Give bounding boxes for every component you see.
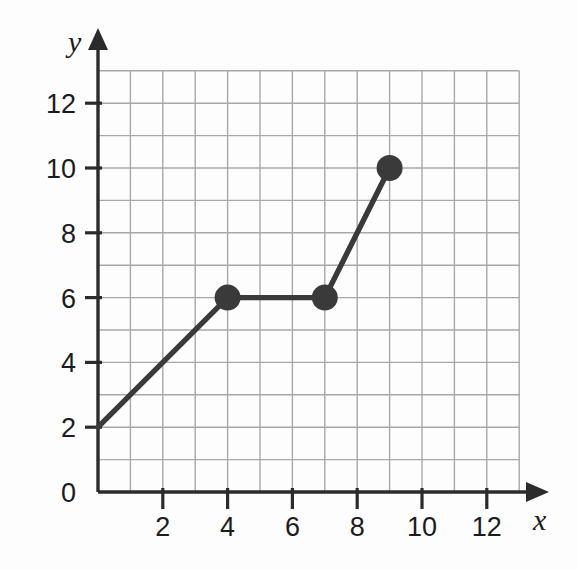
x-axis-tick-labels: 24681012 [155,512,502,542]
x-tick-label: 4 [220,512,235,542]
y-tick-label: 8 [61,219,76,249]
y-axis-label: y [65,25,82,58]
y-tick-label: 0 [61,478,76,508]
x-tick-label: 12 [472,512,502,542]
x-tick-label: 2 [155,512,170,542]
y-tick-label: 6 [61,284,76,314]
y-axis-arrow-icon [88,28,108,50]
x-tick-label: 6 [285,512,300,542]
data-point-dot [312,285,338,311]
y-tick-label: 4 [61,348,76,378]
x-tick-label: 10 [407,512,437,542]
y-tick-label: 10 [46,154,76,184]
data-point-dot [377,155,403,181]
x-axis-arrow-icon [526,482,549,502]
y-tick-label: 12 [46,89,76,119]
coordinate-plane-chart: 024681012 24681012 y x [0,0,577,570]
y-axis-tick-labels: 024681012 [46,89,76,508]
graph-container: 024681012 24681012 y x [0,0,577,570]
y-tick-label: 2 [61,413,76,443]
x-axis-label: x [532,503,547,536]
x-tick-label: 8 [350,512,365,542]
data-point-dot [215,285,241,311]
grid-lines [98,71,519,492]
